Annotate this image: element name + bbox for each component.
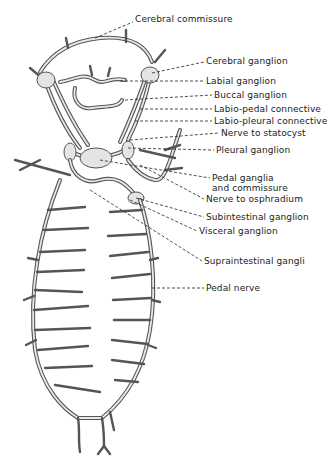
label-labial-ganglion: Labial ganglion <box>206 76 276 86</box>
label-nerve-to-statocyst: Nerve to statocyst <box>221 128 306 138</box>
label-labio-pleural-connective: Labio-pleural connective <box>214 116 327 126</box>
label-buccal-ganglion: Buccal ganglion <box>214 90 287 100</box>
label-pedal-nerve: Pedal nerve <box>206 283 260 293</box>
label-nerve-to-osphradium: Nerve to osphradium <box>206 194 303 204</box>
label-visceral-ganglion: Visceral ganglion <box>199 226 278 236</box>
label-pleural-ganglion: Pleural ganglion <box>216 145 290 155</box>
label-labio-pedal-connective: Labio-pedal connective <box>214 104 321 114</box>
label-pedal-ganglia: Pedal ganglia <box>212 173 274 183</box>
label-subintestinal-ganglion: Subintestinal ganglion <box>206 212 309 222</box>
head-nerve-ring <box>30 30 165 148</box>
label-and-commissure: and commissure <box>212 183 288 193</box>
pedal-pleural-region <box>15 130 182 204</box>
label-supraintestinal-ganglion: Supraintestinal gangli <box>204 256 305 266</box>
nervous-system-drawing <box>0 0 334 458</box>
pedal-nerve-cords <box>24 180 160 454</box>
label-cerebral-ganglion: Cerebral ganglion <box>206 56 288 66</box>
label-cerebral-commissure: Cerebral commissure <box>135 14 233 24</box>
